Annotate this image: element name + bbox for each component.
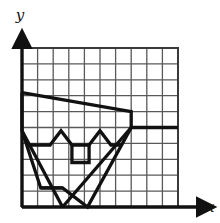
x-axis-label: x: [206, 198, 215, 216]
plot-canvas: y x: [0, 0, 220, 223]
y-axis-label: y: [15, 6, 25, 24]
coordinate-grid-figure: y x: [0, 0, 220, 223]
